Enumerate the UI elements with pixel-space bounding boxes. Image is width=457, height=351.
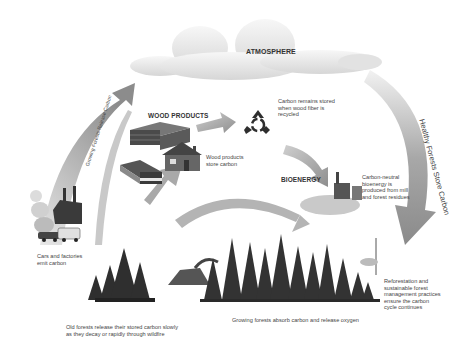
seedling-hand-icon <box>360 238 378 275</box>
cars-factories-label: Cars and factories emit carbon <box>37 253 82 266</box>
growing-forests-label: Growing forests absorb carbon and releas… <box>232 317 359 324</box>
growing-forest-icon <box>200 234 380 302</box>
bioenergy-label: Carbon-neutral bioenergy is produced fro… <box>362 174 410 200</box>
right-arrow-icon <box>364 70 436 245</box>
wood-products-store-label: Wood products store carbon <box>206 154 244 167</box>
wood-products-title: WOOD PRODUCTS <box>148 112 209 119</box>
reforestation-label: Reforestation and sustainable forest man… <box>384 278 441 311</box>
old-forest-icon <box>88 248 155 302</box>
recycle-label: Carbon remains stored when wood fiber is… <box>278 98 335 118</box>
recycle-icon <box>244 110 270 134</box>
old-forests-label: Old forests release their stored carbon … <box>66 324 178 337</box>
book-icon <box>120 160 162 184</box>
bioenergy-title: BIOENERGY <box>281 176 321 183</box>
atmosphere-label: ATMOSPHERE <box>246 48 296 55</box>
